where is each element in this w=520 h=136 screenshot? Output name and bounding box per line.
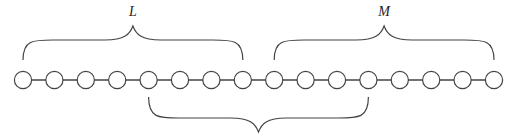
brace-l	[23, 26, 243, 60]
brace-bottom	[149, 97, 369, 132]
chain-node-16	[485, 71, 502, 88]
chain-node-9	[266, 71, 283, 88]
chain-node-11	[328, 71, 345, 88]
brace-label-l: L	[128, 4, 137, 19]
chain-node-6	[171, 71, 188, 88]
diagram-canvas: LM	[0, 0, 520, 136]
chain-node-14	[423, 71, 440, 88]
chain-node-2	[46, 71, 63, 88]
chain-node-15	[454, 71, 471, 88]
chain-node-10	[297, 71, 314, 88]
brace-label-m: M	[377, 4, 391, 19]
labels-group: LM	[128, 4, 391, 19]
chain-node-5	[140, 71, 157, 88]
brace-m	[274, 26, 494, 60]
chain-node-1	[14, 71, 31, 88]
chain-diagram: LM	[0, 0, 520, 136]
chain-node-8	[234, 71, 251, 88]
chain-node-13	[391, 71, 408, 88]
chain-node-7	[203, 71, 220, 88]
chain-node-3	[77, 71, 94, 88]
chain-node-4	[109, 71, 126, 88]
chain-node-12	[360, 71, 377, 88]
